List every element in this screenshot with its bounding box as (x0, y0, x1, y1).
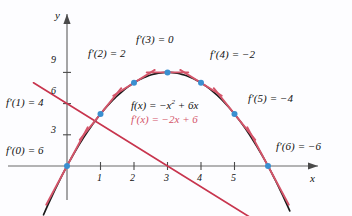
y-tick-label-3: 3 (51, 124, 56, 135)
derivative-equation: f′(x) = −2x + 6 (131, 113, 198, 125)
data-point-x2 (131, 80, 137, 86)
x-tick-label-3: 3 (164, 172, 169, 183)
data-point-x3 (165, 69, 171, 75)
y-tick-label-6: 6 (51, 85, 56, 96)
x-tick-label-4: 4 (197, 172, 202, 183)
function-equation-base: f(x) = −x (131, 99, 172, 111)
derivative-parabola-figure: f′(0) = 6 f′(1) = 4 f′(2) = 2 f′(3) = 0 … (0, 0, 352, 216)
annotation-f5: f′(5) = −4 (248, 92, 293, 104)
annotation-f1: f′(1) = 4 (6, 96, 44, 108)
annotation-f2: f′(2) = 2 (88, 47, 126, 59)
annotation-f6: f′(6) = −6 (276, 140, 321, 152)
data-point-x1 (98, 111, 104, 117)
data-point-x0 (64, 163, 70, 169)
x-axis-label: x (310, 172, 315, 184)
data-point-x6 (265, 163, 271, 169)
tangent-segments-group (46, 70, 289, 205)
function-equation-tail: + 6x (175, 99, 198, 111)
x-tick-label-2: 2 (130, 172, 135, 183)
annotation-f0: f′(0) = 6 (6, 144, 44, 156)
annotation-f4: f′(4) = −2 (210, 48, 255, 60)
x-tick-label-5: 5 (231, 172, 236, 183)
y-tick-label-9: 9 (51, 54, 56, 65)
y-axis-arrowhead (63, 14, 70, 24)
y-axis-label: y (55, 9, 60, 21)
data-point-x5 (232, 111, 238, 117)
x-tick-label-1: 1 (97, 172, 102, 183)
annotation-f3: f′(3) = 0 (136, 33, 174, 45)
x-axis-arrowhead (308, 162, 318, 169)
function-equation: f(x) = −x2 + 6x (131, 98, 198, 111)
data-point-x4 (198, 80, 204, 86)
